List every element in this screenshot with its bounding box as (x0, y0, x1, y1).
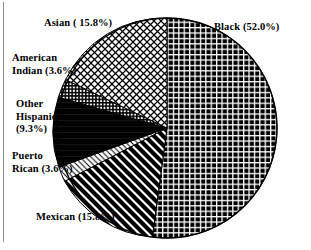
pie-label-mexican: Mexican (15.8%) (36, 211, 114, 224)
pie-chart-figure: Black (52.0%) Mexican (15.8%) Puerto Ric… (0, 0, 311, 250)
pie-slice-black[interactable] (152, 18, 277, 238)
pie-slices (53, 18, 277, 238)
pie-label-asian: Asian ( 15.8%) (44, 17, 112, 30)
pie-label-american-indian: American Indian (3.6%) (12, 52, 76, 77)
pie-label-black: Black (52.0%) (214, 21, 279, 34)
pie-label-puerto-rican: Puerto Rican (3.6%) (12, 150, 73, 175)
pie-label-other-hispanics: Other Hispanics (9.3%) (16, 98, 61, 136)
